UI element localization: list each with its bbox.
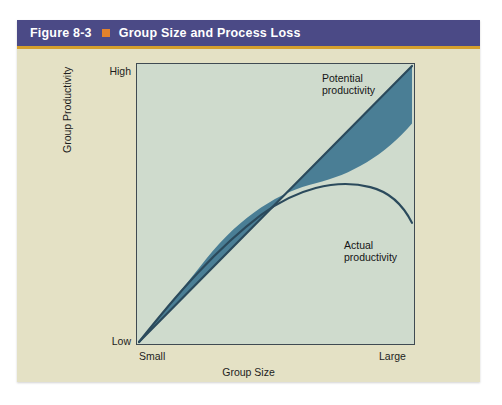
annotation-potential-productivity: Potential productivity: [322, 73, 375, 96]
x-axis-label: Group Size: [17, 366, 480, 378]
x-axis-tick-large: Large: [379, 350, 406, 362]
plot-frame: Potential productivity Actual productivi…: [136, 63, 415, 345]
chart-area: Potential productivity Actual productivi…: [17, 49, 480, 382]
y-axis-tick-high: High: [109, 65, 131, 77]
process-loss-chart: [137, 64, 414, 344]
x-axis-tick-small: Small: [139, 350, 165, 362]
figure-card: Figure 8-3 Group Size and Process Loss P…: [17, 20, 480, 382]
actual-productivity-line: [139, 184, 412, 342]
annotation-actual-productivity: Actual productivity: [344, 240, 397, 263]
y-axis-tick-low: Low: [112, 335, 131, 347]
figure-header-bar: Figure 8-3 Group Size and Process Loss: [17, 20, 480, 46]
orange-square-bullet-icon: [102, 29, 110, 37]
y-axis-label: Group Productivity: [61, 67, 73, 153]
figure-title: Group Size and Process Loss: [119, 26, 301, 40]
figure-number: Figure 8-3: [30, 26, 92, 40]
